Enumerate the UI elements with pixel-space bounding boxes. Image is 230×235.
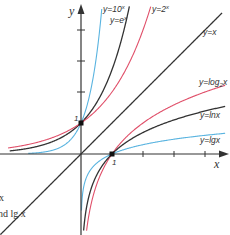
x-axis-label: x [213,157,220,171]
x-one-label: 1 [112,158,116,167]
label-pow2: y=2x [151,4,170,14]
y-one-label: 1 [74,114,78,123]
curve-identity [0,13,222,235]
curves [0,6,225,234]
y-axis-arrow-icon [78,4,85,14]
caption-fragment-1: x [0,192,4,203]
label-identity: y=x [202,27,217,37]
function-graph: y x 1 1 y=10x y=ex y=2x y=x y=log2x y=ln… [0,0,230,235]
y-axis-label: y [68,4,75,18]
curve-ln [84,106,226,230]
curve-log2 [87,85,226,230]
label-lg: y=lgx [199,135,221,145]
point-1-0 [110,152,115,157]
label-pow10: y=10x [102,4,126,14]
label-ln: y=lnx [199,110,221,120]
point-0-1 [79,121,84,126]
curve-exp [10,6,130,150]
caption-fragment-2: nd lg x [0,208,26,219]
label-log2: y=log2x [198,77,228,88]
x-axis-arrow-icon [219,151,229,158]
